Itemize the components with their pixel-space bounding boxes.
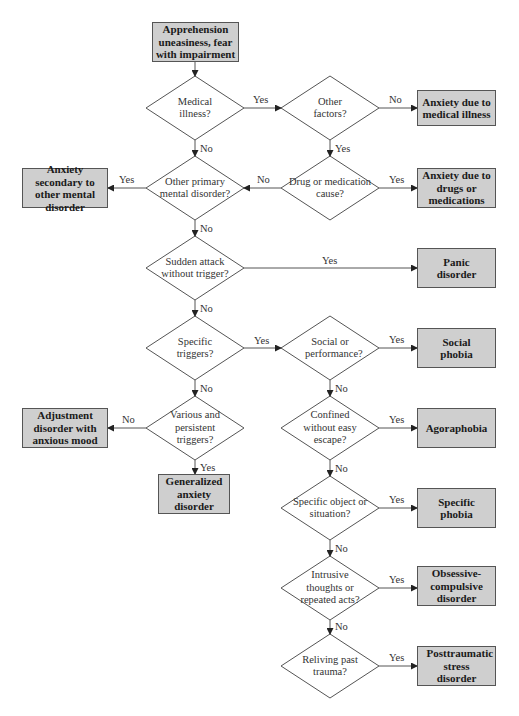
outcome-label: Adjustment disorder with anxious mood bbox=[27, 409, 103, 447]
edge-label-yes: Yes bbox=[200, 462, 215, 473]
edge-label-no: No bbox=[389, 94, 402, 105]
decision-reliving: Reliving past trauma? bbox=[283, 652, 377, 680]
decision-label: Other primary mental disorder? bbox=[152, 176, 238, 201]
outcome-agoraphobia: Agoraphobia bbox=[417, 408, 496, 448]
decision-drug-medication: Drug or medication cause? bbox=[283, 174, 377, 202]
decision-label: Other factors? bbox=[306, 96, 354, 121]
outcome-label: Anxiety due to medical illness bbox=[418, 96, 495, 121]
edge-label-no: No bbox=[335, 383, 348, 394]
outcome-label: Specific phobia bbox=[435, 496, 479, 521]
decision-various-persistent: Various and persistent triggers? bbox=[150, 408, 240, 448]
edge-label-yes: Yes bbox=[389, 334, 404, 345]
start-box: Apprehension uneasiness, fear with impai… bbox=[152, 22, 239, 62]
decision-label: Drug or medication cause? bbox=[283, 176, 377, 201]
outcome-adjustment: Adjustment disorder with anxious mood bbox=[22, 408, 108, 448]
decision-sudden-attack: Sudden attack without trigger? bbox=[150, 254, 240, 282]
outcome-label: Agoraphobia bbox=[426, 422, 488, 435]
decision-social-performance: Social or performance? bbox=[290, 334, 370, 362]
outcome-medical-illness: Anxiety due to medical illness bbox=[417, 90, 496, 126]
edge-label-no: No bbox=[200, 143, 213, 154]
edge-label-yes: Yes bbox=[389, 574, 404, 585]
edge-label-yes: Yes bbox=[322, 255, 337, 266]
edge-label-no: No bbox=[335, 621, 348, 632]
outcome-drugs: Anxiety due to drugs or medications bbox=[417, 168, 496, 208]
decision-medical-illness: Medical illness? bbox=[165, 94, 225, 122]
outcome-ocd: Obsessive-compulsive disorder bbox=[417, 566, 496, 606]
outcome-label: Anxiety due to drugs or medications bbox=[418, 169, 495, 207]
decision-confined: Confined without easy escape? bbox=[290, 408, 370, 448]
edge-label-yes: Yes bbox=[389, 174, 404, 185]
edge-label-yes: Yes bbox=[389, 414, 404, 425]
decision-label: Various and persistent triggers? bbox=[163, 409, 227, 447]
edge-label-no: No bbox=[200, 303, 213, 314]
edge-label-yes: Yes bbox=[254, 335, 269, 346]
decision-label: Confined without easy escape? bbox=[302, 409, 358, 447]
edge-label-yes: Yes bbox=[389, 652, 404, 663]
edge-label-no: No bbox=[257, 174, 270, 185]
edge-label-no: No bbox=[122, 414, 135, 425]
outcome-label: Social phobia bbox=[437, 336, 477, 361]
outcome-panic: Panic disorder bbox=[417, 248, 496, 288]
outcome-gad: Generalized anxiety disorder bbox=[158, 474, 230, 514]
decision-label: Specific object or situation? bbox=[292, 496, 368, 521]
outcome-label: Generalized anxiety disorder bbox=[164, 475, 224, 513]
edge-label-no: No bbox=[200, 383, 213, 394]
edge-label-yes: Yes bbox=[389, 494, 404, 505]
edge-label-no: No bbox=[335, 543, 348, 554]
decision-other-factors: Other factors? bbox=[300, 94, 360, 122]
decision-label: Sudden attack without trigger? bbox=[154, 256, 236, 281]
outcome-label: Obsessive-compulsive disorder bbox=[424, 567, 490, 605]
decision-label: Medical illness? bbox=[171, 96, 219, 121]
edge-label-no: No bbox=[200, 223, 213, 234]
outcome-label: Panic disorder bbox=[437, 256, 477, 281]
decision-label: Social or performance? bbox=[305, 336, 355, 361]
decision-specific-triggers: Specific triggers? bbox=[160, 334, 230, 362]
edge-label-yes: Yes bbox=[335, 143, 350, 154]
start-label: Apprehension uneasiness, fear with impai… bbox=[153, 23, 238, 61]
decision-specific-object: Specific object or situation? bbox=[283, 494, 377, 522]
outcome-label: Anxiety secondary to other mental disord… bbox=[23, 163, 107, 213]
outcome-ptsd: Posttraumatic stress disorder bbox=[417, 646, 496, 686]
decision-label: Specific triggers? bbox=[170, 336, 220, 361]
outcome-specific-phobia: Specific phobia bbox=[417, 488, 496, 528]
edge-label-yes: Yes bbox=[119, 174, 134, 185]
outcome-secondary: Anxiety secondary to other mental disord… bbox=[22, 168, 108, 208]
decision-label: Reliving past trauma? bbox=[298, 654, 362, 679]
decision-other-primary: Other primary mental disorder? bbox=[150, 174, 240, 202]
edge-label-yes: Yes bbox=[253, 94, 268, 105]
outcome-label: Posttraumatic stress disorder bbox=[427, 647, 487, 685]
edge-label-no: No bbox=[335, 463, 348, 474]
decision-intrusive: Intrusive thoughts or repeated acts? bbox=[283, 568, 377, 608]
outcome-social-phobia: Social phobia bbox=[417, 328, 496, 368]
decision-label: Intrusive thoughts or repeated acts? bbox=[293, 569, 367, 607]
